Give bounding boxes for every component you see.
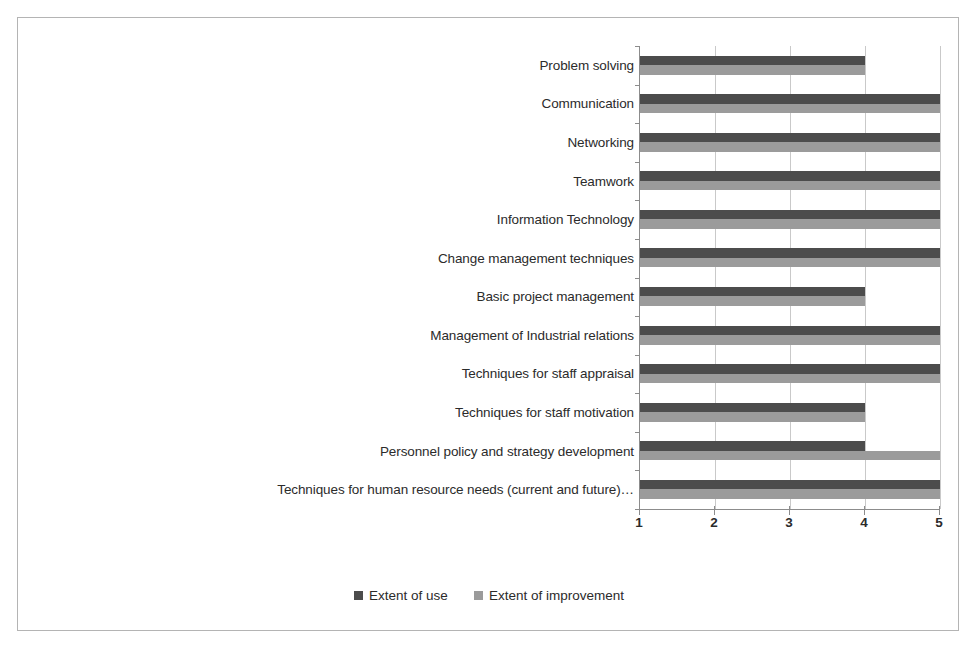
bar-row <box>640 123 940 162</box>
bar-extent-of-improvement <box>640 142 940 152</box>
category-label-row: Techniques for human resource needs (cur… <box>78 470 634 509</box>
bar-row <box>640 200 940 239</box>
value-axis-tick-label: 4 <box>844 515 884 530</box>
category-label-row: Networking <box>78 123 634 162</box>
bar-extent-of-use <box>640 171 940 181</box>
bar-row <box>640 470 940 509</box>
category-label: Problem solving <box>539 58 634 73</box>
legend-swatch-icon <box>474 591 483 600</box>
legend-item[interactable]: Extent of use <box>354 588 448 603</box>
bar-extent-of-use <box>640 364 940 374</box>
chart-legend: Extent of useExtent of improvement <box>18 588 960 603</box>
value-axis-tick-label: 3 <box>769 515 809 530</box>
bar-row <box>640 46 940 85</box>
bar-extent-of-use <box>640 441 865 451</box>
legend-label: Extent of use <box>369 588 448 603</box>
category-label-row: Management of Industrial relations <box>78 316 634 355</box>
bar-row <box>640 355 940 394</box>
category-label-row: Personnel policy and strategy developmen… <box>78 432 634 471</box>
value-axis-tick-label: 1 <box>619 515 659 530</box>
category-label: Information Technology <box>497 212 634 227</box>
bar-extent-of-improvement <box>640 296 865 306</box>
bar-row <box>640 277 940 316</box>
value-axis-tick <box>639 506 640 515</box>
bar-extent-of-improvement <box>640 65 865 75</box>
bar-extent-of-use <box>640 326 940 336</box>
value-axis-tick <box>714 506 715 515</box>
gridline <box>940 46 941 509</box>
bar-extent-of-use <box>640 403 865 413</box>
legend-swatch-icon <box>354 591 363 600</box>
value-axis-line <box>639 509 940 510</box>
category-label: Communication <box>542 96 635 111</box>
category-label: Change management techniques <box>438 251 634 266</box>
bar-series-group <box>640 46 940 509</box>
bar-row <box>640 393 940 432</box>
bar-extent-of-improvement <box>640 451 940 461</box>
bar-extent-of-improvement <box>640 374 940 384</box>
category-label: Networking <box>567 135 634 150</box>
bar-row <box>640 162 940 201</box>
legend-label: Extent of improvement <box>489 588 624 603</box>
bar-extent-of-use <box>640 287 865 297</box>
value-axis-tick <box>939 506 940 515</box>
bar-extent-of-use <box>640 94 940 104</box>
category-label-row: Techniques for staff appraisal <box>78 355 634 394</box>
bar-extent-of-use <box>640 133 940 143</box>
category-label-row: Basic project management <box>78 277 634 316</box>
bar-extent-of-use <box>640 480 940 490</box>
bar-extent-of-use <box>640 248 940 258</box>
bar-extent-of-use <box>640 210 940 220</box>
category-label: Techniques for staff appraisal <box>462 366 634 381</box>
bar-extent-of-improvement <box>640 335 940 345</box>
value-axis-labels: 12345 <box>639 515 939 537</box>
category-label-row: Information Technology <box>78 200 634 239</box>
category-label-row: Change management techniques <box>78 239 634 278</box>
category-label-row: Teamwork <box>78 162 634 201</box>
bar-extent-of-improvement <box>640 258 940 268</box>
bar-extent-of-improvement <box>640 181 940 191</box>
value-axis-tick-label: 2 <box>694 515 734 530</box>
bar-extent-of-improvement <box>640 219 940 229</box>
category-label: Techniques for staff motivation <box>455 405 634 420</box>
bar-row <box>640 432 940 471</box>
bar-row <box>640 85 940 124</box>
bar-extent-of-improvement <box>640 412 865 422</box>
category-label: Management of Industrial relations <box>430 328 634 343</box>
chart-frame: Problem solvingCommunicationNetworkingTe… <box>17 17 959 631</box>
category-label: Teamwork <box>573 174 634 189</box>
plot-region: Problem solvingCommunicationNetworkingTe… <box>18 18 960 538</box>
value-axis-tick <box>789 506 790 515</box>
category-label-row: Problem solving <box>78 46 634 85</box>
bar-row <box>640 316 940 355</box>
category-label: Techniques for human resource needs (cur… <box>277 482 634 497</box>
bar-row <box>640 239 940 278</box>
category-label: Basic project management <box>477 289 634 304</box>
category-label-row: Techniques for staff motivation <box>78 393 634 432</box>
bar-extent-of-use <box>640 56 865 66</box>
value-axis-tick <box>864 506 865 515</box>
category-label-row: Communication <box>78 85 634 124</box>
value-axis-tick-label: 5 <box>919 515 959 530</box>
category-label: Personnel policy and strategy developmen… <box>380 444 634 459</box>
legend-item[interactable]: Extent of improvement <box>474 588 624 603</box>
category-axis-labels: Problem solvingCommunicationNetworkingTe… <box>78 46 634 509</box>
bar-extent-of-improvement <box>640 104 940 114</box>
bar-extent-of-improvement <box>640 489 940 499</box>
plot-area <box>639 46 940 509</box>
